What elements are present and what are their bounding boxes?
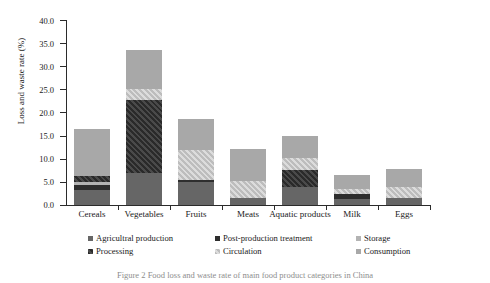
legend-swatch-icon [88,236,93,241]
legend-swatch-icon [88,249,93,254]
bar-segment [230,198,266,205]
bar-segment [178,182,214,205]
legend-label: Processing [96,246,133,256]
bar-segment [282,187,318,205]
bar-segment [282,158,318,170]
legend-item-post-production-treatment: Post-production treatment [215,233,313,243]
x-label-eggs: Eggs [372,209,436,220]
legend-item-processing: Processing [88,246,133,256]
bar-segment [126,50,162,89]
bar-segment [74,190,110,205]
bar-segment [282,170,318,187]
bar-segment [386,198,422,205]
legend-label: Agricultral production [96,233,173,243]
bar-cereals [74,129,110,205]
y-tick-label: 0.0 [43,201,54,210]
bar-segment [386,169,422,187]
bar-segment [230,181,266,197]
legend-swatch-icon [215,236,220,241]
legend-label: Post-production treatment [223,233,313,243]
y-tick-label: 5.0 [43,178,54,187]
bars-layer [66,20,430,205]
legend-swatch-icon [356,249,361,254]
legend-item-agricultral-production: Agricultral production [88,233,173,243]
chart-legend: Agricultral production Post-production t… [64,233,444,259]
legend-swatch-icon [356,236,361,241]
bar-segment [178,119,214,150]
bar-milk [334,175,370,205]
y-tick-label: 35.0 [39,40,54,49]
bar-segment [334,199,370,205]
bar-meats [230,149,266,205]
legend-label: Consumption [364,246,410,256]
bar-segment [178,150,214,180]
legend-swatch-icon [215,249,220,254]
bar-segment [126,100,162,173]
bar-fruits [178,119,214,205]
y-axis-title: Loss and waste rate (%) [16,0,26,166]
bar-vegetables [126,50,162,205]
y-axis-title-wrap: Loss and waste rate (%) [8,0,28,283]
x-axis-line [66,205,431,206]
y-tick-label: 15.0 [39,132,54,141]
figure-caption: Figure 2 Food loss and waste rate of mai… [0,270,490,280]
figure-container: 40.0 35.0 30.0 25.0 20.0 15.0 10.0 5.0 0… [0,0,490,283]
bar-aquatic-products [282,136,318,205]
bar-segment [386,187,422,198]
y-tick-label: 40.0 [39,17,54,26]
y-tick-label: 25.0 [39,86,54,95]
bar-eggs [386,169,422,205]
legend-item-storage: Storage [356,233,390,243]
y-tick-label: 30.0 [39,63,54,72]
legend-label: Circulation [223,246,262,256]
bar-segment [126,89,162,99]
bar-segment [74,129,110,176]
legend-label: Storage [364,233,390,243]
bar-segment [230,149,266,182]
bar-segment [126,173,162,205]
legend-item-consumption: Consumption [356,246,410,256]
y-tick-label: 20.0 [39,109,54,118]
legend-item-circulation: Circulation [215,246,262,256]
y-tick-label: 10.0 [39,155,54,164]
bar-segment [334,175,370,189]
bar-segment [282,136,318,158]
